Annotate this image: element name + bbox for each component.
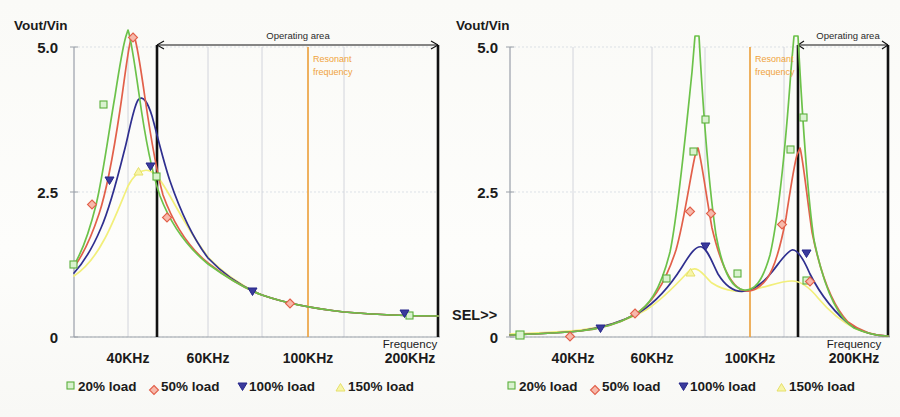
operating-area-label: Operating area	[816, 30, 880, 41]
x-tick-60khz: 60KHz	[187, 350, 230, 366]
legend-label-100: 100% load	[249, 379, 315, 394]
markers-20-load	[516, 114, 810, 339]
y-tick-5: 5.0	[477, 39, 498, 56]
y-tick-0: 0	[490, 329, 498, 346]
y-tick-5: 5.0	[37, 39, 58, 56]
curve-100-load	[510, 247, 888, 336]
chart-left: Vout/Vin 5.0 2.5 0 40KHz 60KHz 100KHz 20…	[0, 0, 450, 417]
operating-area-label: Operating area	[266, 30, 330, 41]
x-tick-40khz: 40KHz	[107, 350, 150, 366]
legend-label-100: 100% load	[690, 379, 756, 394]
legend-label-150: 150% load	[789, 379, 855, 394]
x-axis-label: Frequency	[827, 338, 882, 350]
chart-right-svg: Vout/Vin 5.0 2.5 0 SEL>> 40KHz 60KHz 100…	[450, 0, 900, 417]
x-tick-200khz: 200KHz	[829, 350, 880, 366]
curve-20-load	[510, 36, 888, 336]
x-tick-200khz: 200KHz	[385, 350, 436, 366]
y-axis-label: Vout/Vin	[456, 18, 510, 33]
y-tick-0: 0	[50, 329, 58, 346]
chart-right: Vout/Vin 5.0 2.5 0 SEL>> 40KHz 60KHz 100…	[450, 0, 900, 417]
y-axis-label: Vout/Vin	[14, 18, 68, 33]
markers-100-load	[105, 163, 409, 318]
resonant-frequency-label-line1: Resonant	[755, 54, 794, 64]
y-tick-2-5: 2.5	[37, 184, 58, 201]
x-tick-40khz: 40KHz	[552, 350, 595, 366]
operating-area-box	[157, 41, 438, 337]
legend-label-50: 50% load	[161, 379, 220, 394]
legend-label-20: 20% load	[78, 379, 137, 394]
resonant-frequency-label-line2: frequency	[313, 67, 353, 77]
chart-left-svg: Vout/Vin 5.0 2.5 0 40KHz 60KHz 100KHz 20…	[0, 0, 450, 417]
legend-right: 20% load 50% load 100% load 150% load	[508, 379, 855, 395]
legend-label-20: 20% load	[519, 379, 578, 394]
x-axis-label: Frequency	[383, 338, 438, 350]
sel-marker: SEL>>	[452, 307, 497, 323]
resonant-frequency-label-line1: Resonant	[313, 54, 352, 64]
y-tick-2-5: 2.5	[477, 184, 498, 201]
legend-label-50: 50% load	[602, 379, 661, 394]
legend-left: 20% load 50% load 100% load 150% load	[67, 379, 414, 395]
curve-100-load	[74, 98, 438, 316]
x-tick-100khz: 100KHz	[283, 350, 334, 366]
x-tick-60khz: 60KHz	[631, 350, 674, 366]
curve-50-load	[74, 36, 438, 316]
legend-label-150: 150% load	[348, 379, 414, 394]
curve-20-load	[74, 30, 438, 316]
operating-area-box	[798, 41, 888, 337]
resonant-frequency-label-line2: frequency	[755, 67, 795, 77]
gridlines-horizontal	[510, 47, 890, 337]
x-tick-100khz: 100KHz	[725, 350, 776, 366]
curve-150-load	[510, 269, 888, 336]
